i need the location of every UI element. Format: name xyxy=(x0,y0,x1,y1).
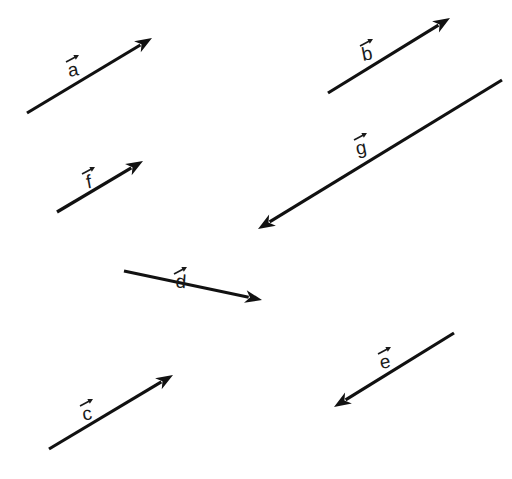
vector-d: d xyxy=(124,267,262,303)
vector-f-shaft xyxy=(57,168,131,212)
arrowhead-icon xyxy=(125,161,143,175)
vector-g-shaft xyxy=(270,80,502,222)
vector-a-shaft xyxy=(27,45,140,113)
vector-label-f: f xyxy=(84,171,94,193)
vector-c: c xyxy=(49,375,173,449)
vector-f: f xyxy=(57,161,143,212)
vector-c-shaft xyxy=(49,382,161,449)
vector-g: g xyxy=(258,80,502,229)
vector-diagram: abgfdec xyxy=(0,0,512,479)
vector-e-shaft xyxy=(346,333,454,400)
vector-b: b xyxy=(328,18,450,93)
vector-label-d: d xyxy=(175,271,187,293)
arrowhead-icon xyxy=(258,215,276,229)
vector-b-shaft xyxy=(328,25,438,93)
vector-a: a xyxy=(27,38,152,113)
arrowhead-icon xyxy=(334,393,352,407)
arrowhead-icon xyxy=(155,375,173,389)
vectors-layer: abgfdec xyxy=(27,18,502,449)
vector-e: e xyxy=(334,333,454,407)
arrowhead-icon xyxy=(134,38,152,52)
arrowhead-icon xyxy=(432,18,450,32)
